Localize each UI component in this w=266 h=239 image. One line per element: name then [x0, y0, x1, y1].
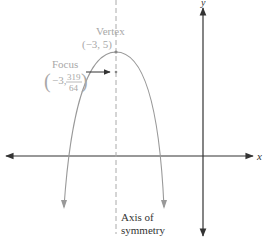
focus-y-denominator: 64 [69, 83, 79, 93]
parabola-right-arrow-icon [161, 200, 167, 209]
y-axis-label: y [200, 0, 206, 8]
axis-of-symmetry-label-line1: Axis of [121, 211, 154, 223]
parabola-left-arrow-icon [61, 200, 67, 209]
x-axis-label: x [256, 150, 262, 162]
focus-open-paren: ( [44, 70, 51, 93]
axis-of-symmetry-label-line2: symmetry [121, 224, 165, 236]
focus-x-value: −3, [52, 74, 67, 86]
parabola-diagram: x y Vertex (−3, 5) Focus ( −3, 319 64 ) … [0, 0, 266, 239]
focus-y-numerator: 319 [67, 72, 81, 82]
vertex-title: Vertex [96, 25, 125, 37]
focus-close-paren: ) [81, 70, 88, 93]
focus-title: Focus [52, 58, 78, 70]
focus-point [115, 71, 118, 74]
vertex-point [114, 50, 117, 53]
vertex-coords: (−3, 5) [82, 38, 112, 51]
